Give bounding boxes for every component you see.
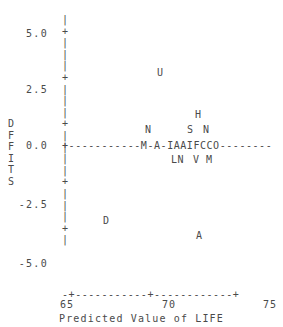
- zero-reference-line: +-----------M-A-IAAIFCCO--------: [62, 141, 272, 151]
- y-tick-label-0: 0.0: [4, 141, 48, 151]
- data-point-V: V: [193, 155, 200, 165]
- data-point-N-left: N: [145, 125, 152, 135]
- y-tick-label-5: 5.0: [4, 29, 48, 39]
- x-tick-label-75: 75: [255, 300, 283, 310]
- data-point-H: H: [195, 110, 202, 120]
- data-point-LN: LN: [171, 155, 184, 165]
- y-tick-label-neg2p5: -2.5: [4, 200, 48, 210]
- data-point-M-below: M: [206, 155, 213, 165]
- data-point-D: D: [103, 216, 110, 226]
- x-tick-label-70: 70: [154, 300, 184, 310]
- y-tick-label-2p5: 2.5: [4, 85, 48, 95]
- x-axis-line: -+-----------+------------+: [62, 290, 239, 300]
- y-axis-line: | + | | | + | | | + | | | | + | | | + |: [62, 14, 70, 246]
- data-point-A-bottom: A: [196, 231, 203, 241]
- data-point-N-right: N: [203, 125, 210, 135]
- x-tick-label-65: 65: [52, 300, 82, 310]
- y-axis-title: D F F I T S: [6, 118, 16, 188]
- data-point-U: U: [157, 68, 164, 78]
- y-tick-label-neg5: -5.0: [4, 259, 48, 269]
- dffits-scatter-plot: D F F I T S 5.0 2.5 0.0 -2.5 -5.0 | + | …: [0, 0, 283, 327]
- data-point-S: S: [187, 125, 194, 135]
- x-axis-title: Predicted Value of LIFE: [0, 314, 283, 324]
